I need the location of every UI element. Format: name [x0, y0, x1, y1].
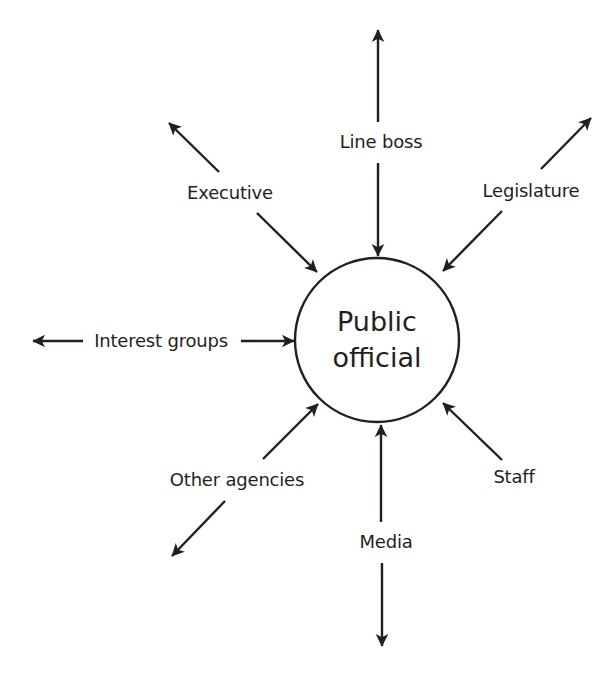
- center-line1: Public: [332, 304, 421, 340]
- public-official-label: Public official: [332, 304, 421, 376]
- executive-inward-arrow: [257, 213, 317, 272]
- other-agencies-outward-arrow: [172, 501, 225, 556]
- media-label: Media: [359, 531, 412, 552]
- staff-inward-arrow: [443, 403, 502, 460]
- legislature-inward-arrow: [443, 211, 502, 271]
- legislature-outward-arrow: [541, 118, 591, 169]
- center-line2: official: [332, 340, 421, 376]
- staff-label: Staff: [493, 466, 534, 487]
- line-boss-label: Line boss: [340, 131, 423, 152]
- other-agencies-label: Other agencies: [170, 469, 304, 490]
- executive-outward-arrow: [169, 123, 219, 172]
- other-agencies-inward-arrow: [263, 404, 318, 459]
- executive-label: Executive: [187, 182, 273, 203]
- influence-diagram: [0, 0, 612, 674]
- interest-groups-label: Interest groups: [94, 330, 228, 351]
- legislature-label: Legislature: [483, 180, 580, 201]
